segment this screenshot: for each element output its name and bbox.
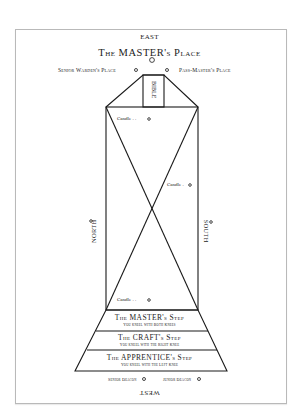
master-place-label: The MASTER's Place: [0, 48, 299, 59]
apprentice-step-title: The APPRENTICE's Step: [0, 354, 299, 362]
master-step-title: The MASTER's Step: [0, 314, 299, 322]
candle-marker: [189, 184, 192, 187]
south-label: SOUTH: [202, 220, 209, 243]
candle-label: Candle . .: [117, 297, 136, 302]
senior-deacon-marker: [143, 378, 146, 381]
senior-warden-label: Senior Warden's Place: [58, 68, 116, 74]
candle-marker: [148, 118, 151, 121]
senior-warden-marker: [135, 69, 138, 72]
east-label: EAST: [0, 34, 299, 41]
junior-deacon-marker: [198, 378, 201, 381]
senior-deacon-label: Senior Deacon: [108, 378, 137, 382]
candle-label: Candle . .: [117, 116, 136, 121]
craft-step-title: The CRAFT's Step: [0, 334, 299, 342]
craft-step-subtitle: You kneel with the Right Knee: [0, 344, 299, 348]
past-master-label: Pass-Master's Place: [179, 68, 231, 74]
west-label: WEST: [0, 389, 299, 396]
bible-label: BIBLE: [151, 81, 157, 97]
south-marker: [210, 221, 213, 224]
master-step-subtitle: You kneel with Both Knees: [0, 324, 299, 328]
apprentice-step-subtitle: You kneel with the Left Knee: [0, 364, 299, 368]
candle-marker: [148, 299, 151, 302]
junior-deacon-label: Junior Deacon: [163, 378, 191, 382]
north-label: NORTH: [91, 220, 98, 244]
past-master-marker: [166, 69, 169, 72]
candle-label: Candle .: [167, 182, 184, 187]
